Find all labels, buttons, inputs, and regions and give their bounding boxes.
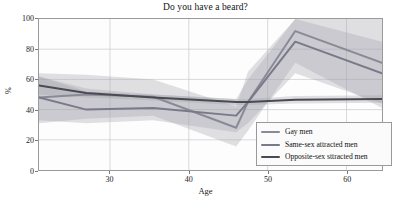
y-tick-mark (35, 140, 38, 141)
y-tick-label: 0 (4, 167, 34, 176)
legend-swatch-opposite-sex-attracted-men (261, 156, 280, 158)
legend-swatch-gay-men (261, 131, 280, 133)
y-tick-mark (35, 171, 38, 172)
legend-label-opposite-sex-attracted-men: Opposite-sex sttracted men (285, 153, 368, 161)
y-tick-label: 40 (4, 105, 34, 114)
x-tick-mark (109, 171, 110, 174)
legend-label-same-sex-attracted-men: Same-sex attracted men (285, 141, 358, 149)
x-tick-label: 30 (89, 175, 129, 184)
y-tick-mark (35, 49, 38, 50)
legend[interactable]: Gay men Same-sex attracted men Opposite-… (256, 122, 392, 166)
legend-item-gay-men[interactable]: Gay men (261, 126, 387, 139)
axis-ticks: 02040608010030405060 (0, 0, 411, 204)
legend-label-gay-men: Gay men (285, 128, 313, 136)
x-tick-label: 40 (169, 175, 209, 184)
x-axis-title: Age (0, 186, 411, 196)
chart-figure: Do you have a beard? 0204060801003040506… (0, 0, 411, 204)
x-tick-mark (347, 171, 348, 174)
x-tick-mark (189, 171, 190, 174)
x-tick-label: 60 (327, 175, 367, 184)
legend-item-opposite-sex-attracted-men[interactable]: Opposite-sex sttracted men (261, 151, 387, 164)
y-tick-label: 20 (4, 136, 34, 145)
legend-swatch-same-sex-attracted-men (261, 144, 280, 146)
y-tick-label: 60 (4, 75, 34, 84)
x-tick-label: 50 (248, 175, 288, 184)
y-tick-mark (35, 79, 38, 80)
y-axis-title: % (4, 87, 13, 94)
y-tick-label: 80 (4, 44, 34, 53)
y-tick-label: 100 (4, 14, 34, 23)
legend-item-same-sex-attracted-men[interactable]: Same-sex attracted men (261, 139, 387, 152)
y-tick-mark (35, 18, 38, 19)
y-tick-mark (35, 110, 38, 111)
x-tick-mark (268, 171, 269, 174)
